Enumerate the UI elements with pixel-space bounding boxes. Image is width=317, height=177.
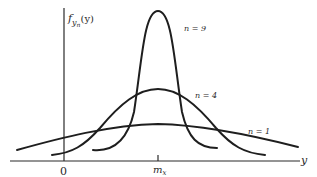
origin-label: 0 [60,165,67,177]
mean-label: mx [153,164,166,177]
curve-label-n1: n = 1 [248,127,270,136]
curve-label-n9: n = 9 [184,24,206,33]
sample-mean-density-diagram: y fyn(y) 0 mx n = 9 n = 4 n = 1 [0,0,317,177]
x-axis-label: y [300,154,308,167]
curve-n4 [52,89,265,155]
curve-label-n4: n = 4 [195,91,217,100]
y-axis-label: fyn(y) [67,12,94,28]
